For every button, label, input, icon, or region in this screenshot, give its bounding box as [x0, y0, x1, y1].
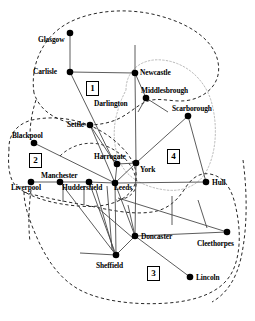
region-3-left-edge [29, 190, 31, 242]
edge-newcastle-york [135, 73, 136, 163]
edge-spur-leeds-down-b [96, 190, 114, 252]
region-label-1: 1 [86, 81, 99, 96]
region-4-boundary [114, 60, 215, 191]
label-liverpool: Liverpool [11, 184, 41, 192]
node-scarborough[interactable] [185, 113, 192, 120]
node-doncaster[interactable] [132, 233, 139, 240]
edge-spur-bottom-left [80, 253, 116, 255]
label-lincoln: Lincoln [196, 274, 220, 282]
node-blackpool[interactable] [31, 140, 38, 147]
region-label-2: 2 [29, 153, 42, 168]
label-middlesbrough: Middlesbrough [141, 87, 188, 95]
edge-york-doncaster [135, 163, 136, 236]
label-settle: Settle [67, 121, 84, 129]
node-newcastle[interactable] [132, 70, 139, 77]
region-label-3: 3 [147, 266, 160, 281]
node-york[interactable] [133, 160, 140, 167]
label-leeds: Leeds [114, 184, 132, 192]
label-york: York [140, 166, 155, 174]
edge-doncaster-sheffield [116, 236, 135, 255]
edge-carlisle-newcastle [70, 72, 135, 73]
label-manchester: Manchester [41, 172, 77, 180]
label-darlington: Darlington [94, 100, 128, 108]
node-middlesbrough[interactable] [143, 95, 150, 102]
label-cleethorpes: Cleethorpes [197, 240, 234, 248]
edge-leeds-sheffield [115, 183, 116, 255]
diagram-canvas: Glasgow Carlisle Newcastle Middlesbrough… [0, 0, 255, 321]
label-glasgow: Glasgow [38, 36, 64, 44]
edge-doncaster-lincoln [135, 236, 190, 277]
node-carlisle[interactable] [67, 69, 74, 76]
label-hull: Hull [212, 179, 226, 187]
label-blackpool: Blackpool [12, 132, 43, 140]
label-doncaster: Doncaster [141, 233, 172, 241]
label-scarborough: Scarborough [172, 105, 212, 113]
label-huddersfield: Huddersfield [62, 184, 102, 192]
node-harrogate[interactable] [114, 161, 121, 168]
node-glasgow[interactable] [67, 30, 74, 37]
node-hull[interactable] [203, 179, 210, 186]
node-sheffield[interactable] [113, 252, 120, 259]
label-newcastle: Newcastle [140, 69, 171, 77]
edge-scarborough-hull [188, 116, 206, 182]
node-lincoln[interactable] [187, 274, 194, 281]
label-sheffield: Sheffield [96, 262, 123, 270]
node-settle[interactable] [87, 122, 94, 129]
edge-york-scarborough [136, 116, 188, 163]
region-label-4: 4 [167, 149, 180, 164]
node-cleethorpes[interactable] [224, 229, 231, 236]
label-carlisle: Carlisle [33, 68, 57, 76]
label-harrogate: Harrogate [94, 153, 126, 161]
